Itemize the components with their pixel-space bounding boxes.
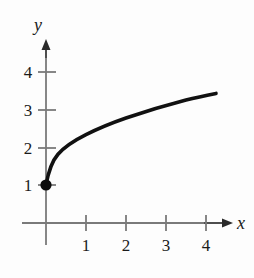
y-tick-label-4: 4 xyxy=(24,63,33,82)
y-axis-ticks xyxy=(38,72,56,185)
graph-figure: y x 1 2 3 4 4 3 2 1 xyxy=(0,0,254,278)
x-tick-label-2: 2 xyxy=(122,236,131,255)
y-tick-label-1: 1 xyxy=(24,176,33,195)
x-tick-label-4: 4 xyxy=(202,236,211,255)
x-axis-arrowhead xyxy=(222,219,233,228)
y-tick-label-2: 2 xyxy=(24,139,33,158)
y-tick-label-3: 3 xyxy=(24,101,33,120)
y-axis-arrowhead xyxy=(42,39,51,50)
x-tick-label-1: 1 xyxy=(82,236,91,255)
endpoint-dot-0-1 xyxy=(40,179,51,190)
y-axis-label: y xyxy=(32,15,42,35)
x-tick-label-3: 3 xyxy=(162,236,171,255)
function-curve xyxy=(46,93,216,185)
coordinate-plot: y x 1 2 3 4 4 3 2 1 xyxy=(0,0,254,278)
x-axis-label: x xyxy=(236,213,245,233)
